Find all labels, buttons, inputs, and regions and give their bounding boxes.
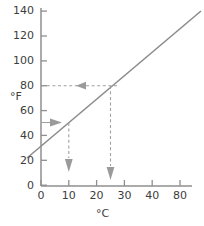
x-tick-label: 30 [114,190,134,201]
annotation-up-arrowhead [107,167,115,180]
conversion-line [27,11,201,158]
x-tick-label: 40 [142,190,162,201]
y-tick-marks [41,11,47,185]
x-tick-marks [41,180,180,186]
y-tick-label: 40 [6,130,34,141]
x-tick-label: 10 [59,190,79,201]
annotation-left-arrowhead [76,82,86,90]
x-tick-label: 0 [31,190,51,201]
y-tick-label: 20 [6,155,34,166]
y-tick-label: 140 [6,5,34,16]
x-tick-label: 80 [170,190,190,201]
y-axis-title: °F [10,91,22,102]
temperature-conversion-chart: 140 120 100 80 60 40 20 0 0 10 20 30 40 … [0,0,204,226]
y-tick-label: 120 [6,30,34,41]
conversion-line-group [27,11,201,158]
x-tick-label: 20 [87,190,107,201]
x-axis-title: °C [96,208,109,219]
annotation-right-arrowhead [50,118,62,126]
annotation-down-arrowhead [65,159,73,172]
y-tick-label: 100 [6,55,34,66]
y-tick-label: 0 [6,180,34,191]
y-tick-label: 60 [6,105,34,116]
